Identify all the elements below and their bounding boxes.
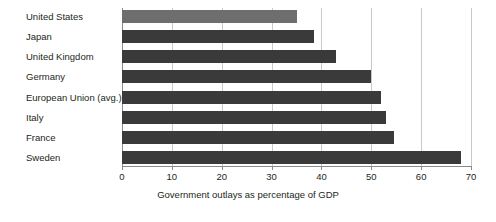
tick-label: 30: [266, 170, 277, 183]
tick-label: 40: [316, 170, 327, 183]
plot-area: [122, 8, 471, 166]
category-label: Sweden: [0, 151, 118, 164]
bar-sweden: [122, 151, 461, 164]
category-label: Italy: [0, 111, 118, 124]
bar-series: [122, 8, 471, 166]
bar-row: [122, 10, 471, 23]
category-label: United States: [0, 10, 118, 23]
tick-label: 0: [119, 170, 124, 183]
bar-italy: [122, 111, 386, 124]
category-axis-labels: United States Japan United Kingdom Germa…: [0, 8, 118, 166]
tick-label: 50: [366, 170, 377, 183]
x-axis-tick-labels: 010203040506070: [122, 170, 471, 184]
bar-germany: [122, 70, 371, 83]
bar-row: [122, 151, 471, 164]
x-axis-title: Government outlays as percentage of GDP: [0, 189, 496, 200]
bar-france: [122, 131, 394, 144]
bar-row: [122, 91, 471, 104]
bar-united-states: [122, 10, 297, 23]
category-label: France: [0, 131, 118, 144]
bar-united-kingdom: [122, 50, 336, 63]
bar-row: [122, 131, 471, 144]
category-label: European Union (avg.): [0, 91, 118, 104]
bar-chart: United States Japan United Kingdom Germa…: [0, 0, 496, 222]
tick-label: 70: [466, 170, 477, 183]
tick-label: 20: [216, 170, 227, 183]
bar-row: [122, 50, 471, 63]
category-label: United Kingdom: [0, 50, 118, 63]
bar-row: [122, 111, 471, 124]
bar-row: [122, 30, 471, 43]
tick-label: 10: [167, 170, 178, 183]
category-label: Japan: [0, 30, 118, 43]
tick-label: 60: [416, 170, 427, 183]
bar-japan: [122, 30, 314, 43]
category-label: Germany: [0, 70, 118, 83]
bar-european-union: [122, 91, 381, 104]
bar-row: [122, 70, 471, 83]
gridline: [471, 8, 472, 166]
